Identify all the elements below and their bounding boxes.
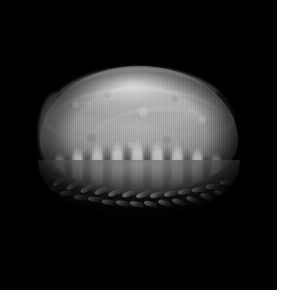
woven-dome-object — [38, 66, 240, 218]
photo-plate — [0, 0, 277, 290]
braided-rim — [38, 160, 240, 218]
photograph-frame: Grayscale photograph of a woven dome-sha… — [0, 0, 285, 298]
